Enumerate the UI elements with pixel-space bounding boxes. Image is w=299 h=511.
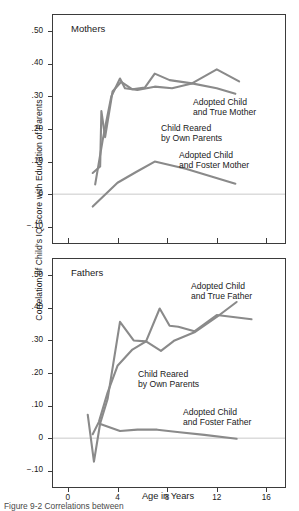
annotation-true-mother: Adopted Child and True Mother bbox=[193, 97, 256, 118]
x-tick-mark bbox=[266, 238, 267, 243]
y-tick-label: .20 bbox=[17, 368, 43, 377]
annotation-foster-mother: Adopted Child and Foster Mother bbox=[179, 150, 249, 171]
chart-panel-fathers: Fathers .50.40.30.20.100−.100481216Child… bbox=[52, 258, 286, 488]
y-tick-mark bbox=[48, 308, 53, 309]
y-tick-label: .30 bbox=[17, 335, 43, 344]
y-tick-label: .50 bbox=[17, 270, 43, 279]
chart-panel-mothers: Mothers .50.40.30.20.100−.10Child Reared… bbox=[52, 14, 286, 244]
y-tick-mark bbox=[48, 162, 53, 163]
y-tick-mark bbox=[48, 373, 53, 374]
y-tick-mark bbox=[48, 438, 53, 439]
annotation-own-parents: Child Reared by Own Parents bbox=[161, 123, 222, 144]
y-tick-mark bbox=[48, 406, 53, 407]
y-tick-mark bbox=[48, 227, 53, 228]
annotation-foster-father: Adopted Child and Foster Father bbox=[183, 407, 251, 428]
y-tick-label: .40 bbox=[17, 58, 43, 67]
annotation-true-father: Adopted Child and True Father bbox=[191, 281, 252, 302]
y-tick-mark bbox=[48, 96, 53, 97]
y-tick-mark bbox=[48, 31, 53, 32]
x-axis-title: Age in Years bbox=[52, 491, 284, 501]
y-tick-label: −.10 bbox=[17, 221, 43, 230]
y-tick-label: .20 bbox=[17, 124, 43, 133]
y-tick-mark bbox=[48, 129, 53, 130]
y-tick-label: .40 bbox=[17, 302, 43, 311]
y-tick-label: −.10 bbox=[17, 465, 43, 474]
y-tick-mark bbox=[48, 340, 53, 341]
x-tick-mark bbox=[167, 238, 168, 243]
y-tick-mark bbox=[48, 471, 53, 472]
x-tick-mark bbox=[118, 238, 119, 243]
annotation-own-parents: Child Reared by Own Parents bbox=[138, 369, 199, 390]
y-tick-label: .10 bbox=[17, 400, 43, 409]
x-tick-mark bbox=[68, 238, 69, 243]
figure-caption: Figure 9-2 Correlations between bbox=[4, 501, 244, 511]
y-tick-label: .10 bbox=[17, 156, 43, 165]
y-tick-mark bbox=[48, 194, 53, 195]
y-tick-mark bbox=[48, 275, 53, 276]
x-tick-mark bbox=[217, 238, 218, 243]
y-tick-label: 0 bbox=[17, 433, 43, 442]
y-tick-label: .50 bbox=[17, 26, 43, 35]
figure-container: Correlation of Child's IQ Score with Edu… bbox=[0, 0, 299, 511]
y-tick-label: 0 bbox=[17, 189, 43, 198]
y-tick-label: .30 bbox=[17, 91, 43, 100]
y-tick-mark bbox=[48, 64, 53, 65]
